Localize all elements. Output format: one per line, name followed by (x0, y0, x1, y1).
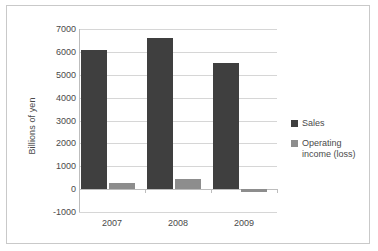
y-axis-tick-label: 2000 (40, 139, 76, 148)
y-axis-title-label: Billions of yen (27, 97, 37, 154)
chart-legend: SalesOperating income (loss) (291, 118, 369, 169)
bar-group (79, 29, 145, 212)
plot-area (79, 29, 277, 212)
bar-group (211, 29, 277, 212)
legend-swatch-icon (291, 140, 298, 147)
legend-item[interactable]: Operating income (loss) (291, 138, 369, 160)
bar-operating-income[interactable] (241, 189, 267, 192)
y-axis-tick-labels: 70006000500040003000200010000-1000 (40, 29, 76, 212)
legend-swatch-icon (291, 120, 298, 127)
y-axis-tick-label: -1000 (40, 208, 76, 217)
y-axis-tick-label: 7000 (40, 25, 76, 34)
gridline (79, 212, 277, 213)
y-axis-tick-label: 3000 (40, 117, 76, 126)
x-axis-tick-label: 2007 (79, 218, 145, 228)
chart-figure: Billions of yen 700060005000400030002000… (6, 5, 370, 244)
x-axis-tick-mark (277, 189, 278, 193)
bars-layer (79, 29, 277, 212)
y-axis-tick-label: 1000 (40, 162, 76, 171)
legend-item-label: Operating income (loss) (302, 138, 369, 160)
bar-sales[interactable] (81, 50, 107, 190)
y-axis-title: Billions of yen (25, 66, 39, 186)
bar-sales[interactable] (147, 38, 173, 189)
x-axis-tick-labels: 200720082009 (79, 218, 277, 232)
y-axis-tick-label: 4000 (40, 94, 76, 103)
bar-operating-income[interactable] (175, 179, 201, 189)
y-axis-tick-label: 0 (40, 185, 76, 194)
bar-group (145, 29, 211, 212)
x-axis-tick-label: 2009 (211, 218, 277, 228)
bar-operating-income[interactable] (109, 183, 135, 189)
y-axis-tick-label: 6000 (40, 48, 76, 57)
bar-sales[interactable] (213, 63, 239, 189)
y-axis-tick-label: 5000 (40, 71, 76, 80)
legend-item-label: Sales (302, 118, 325, 129)
legend-item[interactable]: Sales (291, 118, 369, 129)
x-axis-tick-label: 2008 (145, 218, 211, 228)
